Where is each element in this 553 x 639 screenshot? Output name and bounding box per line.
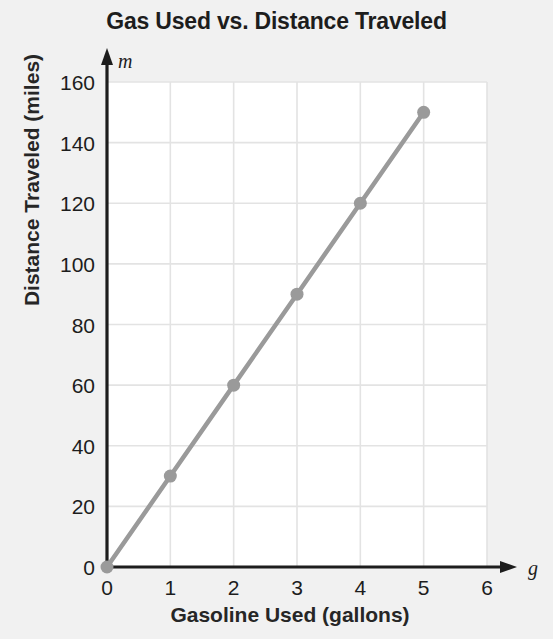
data-point-marker bbox=[227, 379, 240, 392]
y-tick-label: 140 bbox=[60, 132, 95, 155]
data-point-marker bbox=[101, 561, 114, 574]
x-tick-label: 1 bbox=[164, 576, 176, 599]
data-point-marker bbox=[354, 197, 367, 210]
y-tick-label: 20 bbox=[72, 495, 95, 518]
y-tick-label: 40 bbox=[72, 435, 95, 458]
x-tick-label: 4 bbox=[354, 576, 366, 599]
data-point-marker bbox=[164, 470, 177, 483]
y-tick-label: 160 bbox=[60, 71, 95, 94]
x-tick-label: 2 bbox=[228, 576, 240, 599]
x-tick-label: 5 bbox=[418, 576, 430, 599]
x-tick-label: 0 bbox=[101, 576, 113, 599]
chart-container: Gas Used vs. Distance Traveled Distance … bbox=[0, 0, 553, 639]
y-axis-arrow bbox=[101, 48, 113, 65]
plot-area: m g 020406080100120140160 0123456 bbox=[0, 0, 553, 639]
x-tick-label: 3 bbox=[291, 576, 303, 599]
x-axis-arrow bbox=[500, 561, 517, 573]
x-tick-label: 6 bbox=[481, 576, 493, 599]
x-axis-tick-labels: 0123456 bbox=[101, 576, 493, 599]
y-tick-label: 0 bbox=[83, 556, 95, 579]
y-tick-label: 60 bbox=[72, 374, 95, 397]
y-tick-label: 80 bbox=[72, 314, 95, 337]
y-tick-label: 120 bbox=[60, 192, 95, 215]
data-point-marker bbox=[417, 106, 430, 119]
y-tick-label: 100 bbox=[60, 253, 95, 276]
data-point-marker bbox=[291, 288, 304, 301]
y-axis-variable-label: m bbox=[118, 50, 132, 72]
y-axis-tick-labels: 020406080100120140160 bbox=[60, 71, 95, 579]
x-axis-variable-label: g bbox=[528, 557, 538, 580]
